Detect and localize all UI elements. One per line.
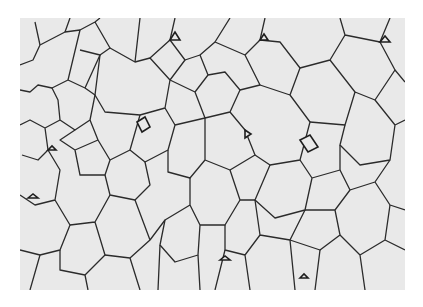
foam-photograph: Two-dimensional soap foam: polygonal bub… — [20, 18, 405, 290]
foam-cells — [20, 18, 405, 290]
